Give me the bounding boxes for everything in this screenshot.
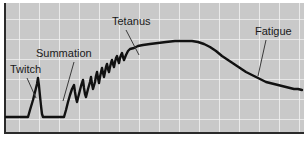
annotation-label-twitch: Twitch bbox=[10, 63, 41, 75]
annotation-label-tetanus: Tetanus bbox=[112, 15, 151, 27]
plot-gridlines bbox=[4, 3, 304, 133]
annotation-label-summation: Summation bbox=[36, 47, 92, 59]
annotation-label-fatigue: Fatigue bbox=[255, 25, 292, 37]
myogram-figure: Twitch Summation Tetanus Fatigue bbox=[0, 0, 308, 143]
myogram-chart: Twitch Summation Tetanus Fatigue bbox=[0, 0, 308, 143]
